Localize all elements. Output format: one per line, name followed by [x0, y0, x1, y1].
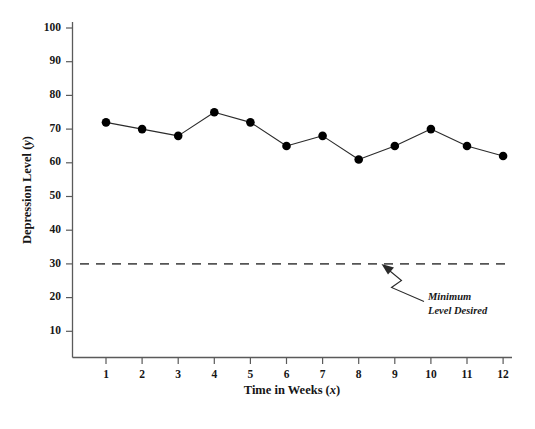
x-tick-label: 10	[425, 368, 437, 380]
x-axis-title-tail: )	[336, 383, 340, 397]
x-tick-label: 7	[320, 368, 326, 380]
x-tick-label: 4	[211, 368, 217, 380]
x-tick-label: 5	[248, 368, 254, 380]
y-tick-label: 10	[50, 324, 62, 336]
data-point	[318, 132, 327, 141]
depression-level-line	[106, 112, 503, 159]
data-point	[427, 125, 436, 134]
data-point	[282, 142, 291, 151]
annotation-arrow	[382, 264, 425, 302]
y-tick-label: 20	[50, 290, 62, 302]
data-point	[102, 118, 111, 127]
x-axis-title-text: Time in Weeks (	[244, 383, 330, 397]
x-tick-label: 11	[462, 368, 473, 380]
x-tick-label: 2	[139, 368, 145, 380]
y-tick-label: 70	[50, 122, 62, 134]
x-axis-tick-labels: 1 2 3 4 5 6 7 8 9 10 11 12	[103, 368, 509, 380]
chart-figure: 10 20 30 40 50 60 70 80 90 100	[0, 0, 535, 429]
data-point	[138, 125, 147, 134]
line-chart-canvas: 10 20 30 40 50 60 70 80 90 100	[0, 0, 535, 429]
y-axis-tick-labels: 10 20 30 40 50 60 70 80 90 100	[44, 21, 62, 336]
x-tick-label: 3	[175, 368, 181, 380]
y-tick-label: 100	[44, 21, 62, 33]
x-tick-label: 12	[497, 368, 509, 380]
y-tick-label: 30	[50, 257, 62, 269]
y-axis-title-tail: )	[20, 136, 34, 140]
y-tick-label: 80	[50, 88, 62, 100]
data-point	[174, 132, 183, 141]
data-point	[463, 142, 472, 151]
x-tick-label: 1	[103, 368, 109, 380]
y-tick-label: 40	[50, 223, 62, 235]
x-tick-label: 9	[392, 368, 398, 380]
y-axis-ticks	[66, 28, 73, 331]
y-axis-title: Depression Level (y)	[20, 136, 34, 244]
annotation-label-line2: Level Desired	[427, 305, 488, 316]
y-tick-label: 90	[50, 54, 62, 66]
x-axis-ticks	[106, 358, 503, 365]
y-axis-title-text: Depression Level (	[20, 146, 34, 244]
data-point	[210, 108, 219, 117]
y-tick-label: 50	[50, 189, 62, 201]
x-axis-title-variable: x	[329, 383, 336, 397]
data-point	[246, 118, 255, 127]
x-axis-title: Time in Weeks (x)	[244, 383, 340, 397]
annotation-label-line1: Minimum	[427, 291, 471, 302]
data-point	[499, 152, 508, 161]
data-point	[354, 155, 363, 164]
x-tick-label: 6	[284, 368, 290, 380]
data-point	[391, 142, 400, 151]
y-tick-label: 60	[50, 155, 62, 167]
x-tick-label: 8	[356, 368, 362, 380]
